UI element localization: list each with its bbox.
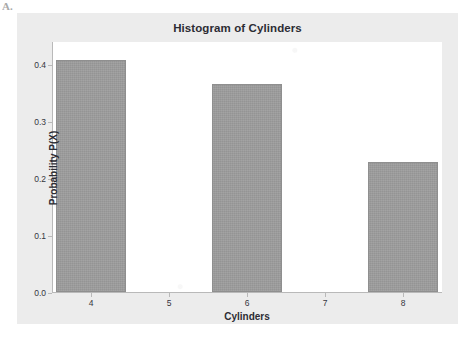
figure-card: Histogram of Cylinders 0.00.10.20.30.445… [17, 13, 458, 324]
y-axis-title: Probability P(X) [48, 130, 59, 204]
scanned-page: A. Histogram of Cylinders 0.00.10.20.30.… [0, 0, 475, 337]
x-axis-title: Cylinders [52, 311, 442, 322]
chart-title: Histogram of Cylinders [17, 22, 458, 34]
x-tick-mark [91, 293, 92, 297]
x-tick-mark [403, 293, 404, 297]
bar-6 [212, 84, 282, 292]
y-tick-label: 0.1 [34, 231, 46, 241]
x-tick-label: 6 [245, 298, 250, 308]
x-tick-label: 5 [167, 298, 172, 308]
x-tick-label: 4 [89, 298, 94, 308]
y-tick-mark [48, 65, 52, 66]
plot-area: 0.00.10.20.30.445678 Probability P(X) [52, 42, 442, 293]
bar-8 [368, 162, 438, 292]
y-tick-label: 0.0 [34, 288, 46, 298]
y-tick-label: 0.4 [34, 60, 46, 70]
page-margin-mark: A. [2, 0, 24, 12]
x-tick-mark [169, 293, 170, 297]
bar-4 [56, 60, 126, 292]
x-tick-mark [325, 293, 326, 297]
y-tick-label: 0.3 [34, 117, 46, 127]
x-tick-mark [247, 293, 248, 297]
y-tick-label: 0.2 [34, 174, 46, 184]
plot-inner: 0.00.10.20.30.445678 [52, 42, 442, 293]
x-tick-label: 7 [323, 298, 328, 308]
x-tick-label: 8 [401, 298, 406, 308]
y-tick-mark [48, 122, 52, 123]
y-tick-mark [48, 236, 52, 237]
y-tick-mark [48, 293, 52, 294]
